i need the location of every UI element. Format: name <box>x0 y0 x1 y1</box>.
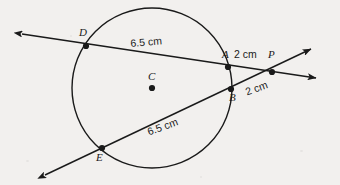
point-label-b: B <box>229 92 236 103</box>
center-point-dot <box>149 85 155 91</box>
point-label-a: A <box>222 49 229 60</box>
measurement-label-da: 6.5 cm <box>130 35 162 48</box>
secant-line-through-e-b-p <box>45 49 311 175</box>
point-dot-p <box>269 69 275 75</box>
point-dot-a <box>225 64 231 70</box>
geometry-canvas <box>0 0 340 185</box>
geometry-figure: D A P B E C 6.5 cm 2 cm 2 cm 6.5 cm <box>0 0 340 185</box>
center-label-c: C <box>148 71 155 82</box>
point-label-p: P <box>268 49 275 60</box>
point-label-e: E <box>96 152 103 163</box>
point-label-d: D <box>79 27 87 38</box>
point-dot-d <box>83 43 89 49</box>
secant-line-E-B-P <box>45 49 311 175</box>
measurement-label-ap: 2 cm <box>234 49 257 60</box>
